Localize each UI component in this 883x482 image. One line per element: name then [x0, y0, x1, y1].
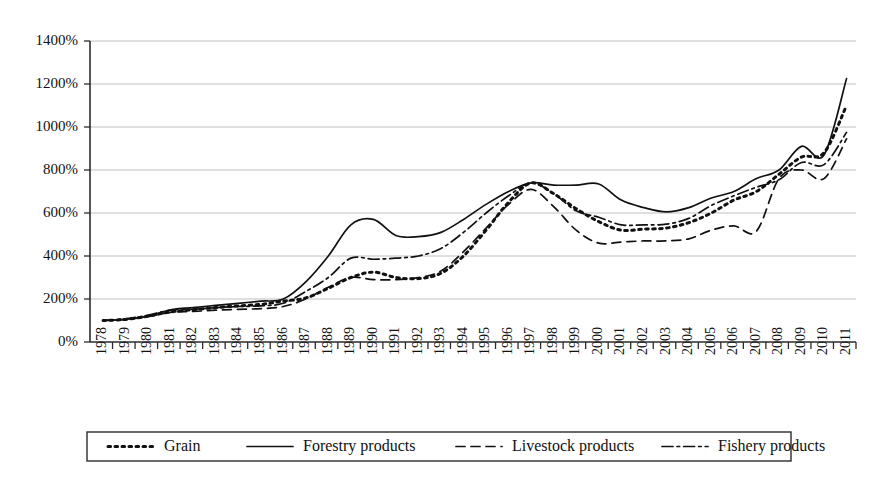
x-tick-label: 1989 — [342, 327, 357, 355]
chart-legend: GrainForestry productsLivestock products… — [87, 432, 825, 461]
x-tick-label: 1984 — [229, 327, 244, 355]
x-tick-label: 1981 — [162, 327, 177, 355]
x-tick-label: 1982 — [184, 327, 199, 355]
series-line-livestock-products — [103, 139, 846, 321]
x-tick-label: 2001 — [612, 327, 627, 355]
y-tick-label: 200% — [43, 290, 78, 306]
x-tick-label: 1993 — [432, 327, 447, 355]
y-tick-label: 0% — [58, 333, 78, 349]
legend-label-livestock-products: Livestock products — [512, 437, 634, 455]
x-tick-label: 2009 — [793, 327, 808, 355]
gridlines — [90, 41, 856, 299]
x-tick-label: 1998 — [545, 327, 560, 355]
y-axis-tick-labels: 0%200%400%600%800%1000%1200%1400% — [36, 32, 79, 349]
x-tick-label: 1987 — [297, 327, 312, 355]
x-tick-label: 2008 — [770, 327, 785, 355]
x-tick-label: 1979 — [117, 327, 132, 355]
x-tick-label: 2006 — [725, 327, 740, 355]
x-tick-label: 2005 — [703, 327, 718, 355]
x-tick-label: 1999 — [567, 327, 582, 355]
series-line-forestry-products — [103, 79, 846, 321]
chart-container: 0%200%400%600%800%1000%1200%1400% 197819… — [0, 0, 883, 482]
x-tick-label: 2004 — [680, 327, 695, 355]
x-tick-label: 2007 — [748, 327, 763, 355]
x-tick-label: 2003 — [658, 327, 673, 355]
x-tick-label: 2000 — [590, 327, 605, 355]
y-tick-label: 600% — [43, 204, 78, 220]
line-chart-figure: 0%200%400%600%800%1000%1200%1400% 197819… — [0, 0, 883, 482]
x-tick-label: 1985 — [252, 327, 267, 355]
y-tick-label: 1400% — [36, 32, 79, 48]
data-series — [103, 79, 846, 321]
y-tick-label: 1000% — [36, 118, 79, 134]
legend-label-fishery-products: Fishery products — [718, 437, 825, 455]
x-tick-label: 1996 — [500, 327, 515, 355]
x-tick-label: 1990 — [365, 327, 380, 355]
legend-label-grain: Grain — [164, 437, 200, 454]
x-tick-label: 1995 — [477, 327, 492, 355]
y-tick-label: 800% — [43, 161, 78, 177]
y-axis-ticks — [84, 41, 90, 342]
x-tick-label: 2010 — [815, 327, 830, 355]
x-tick-label: 1992 — [410, 327, 425, 355]
x-tick-label: 2002 — [635, 327, 650, 355]
axis-lines — [90, 41, 856, 342]
x-axis-tick-labels: 1978197919801981198219831984198519861987… — [94, 327, 852, 355]
x-tick-label: 1994 — [455, 327, 470, 355]
x-tick-label: 1997 — [522, 327, 537, 355]
x-tick-label: 1980 — [139, 327, 154, 355]
y-tick-label: 400% — [43, 247, 78, 263]
x-tick-label: 1991 — [387, 327, 402, 355]
y-tick-label: 1200% — [36, 75, 79, 91]
x-tick-label: 1988 — [320, 327, 335, 355]
x-tick-label: 1986 — [275, 327, 290, 355]
x-tick-label: 1983 — [207, 327, 222, 355]
x-tick-label: 1978 — [94, 327, 109, 355]
legend-label-forestry-products: Forestry products — [303, 437, 415, 455]
